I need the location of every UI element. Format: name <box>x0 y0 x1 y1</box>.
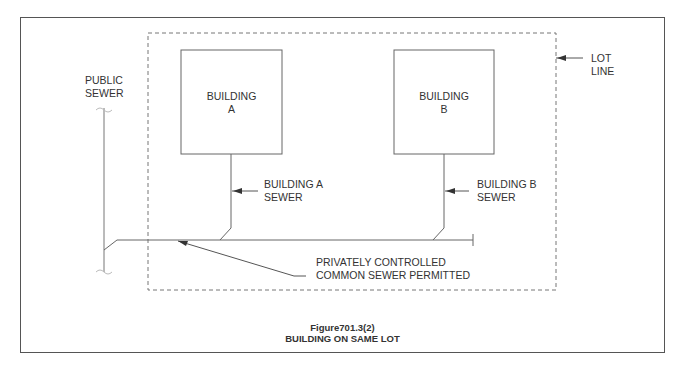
building-a-sewer-label: BUILDING A SEWER <box>264 178 323 204</box>
common-sewer-pipe <box>104 240 473 250</box>
building-a-label-line2: A <box>181 103 282 116</box>
lot-line-label: LOT LINE <box>591 52 614 78</box>
figure-number: Figure701.3(2) <box>20 322 665 333</box>
figure-title: BUILDING ON SAME LOT <box>20 333 665 344</box>
common-sewer-label-line1: PRIVATELY CONTROLLED <box>316 256 470 269</box>
figure-caption: Figure701.3(2) BUILDING ON SAME LOT <box>20 322 665 344</box>
building-a-label-line1: BUILDING <box>181 90 282 103</box>
building-b-sewer-pipe <box>433 154 444 240</box>
building-b-sewer-label-line2: SEWER <box>477 191 537 204</box>
building-b-label-line2: B <box>394 103 494 116</box>
common-sewer-label-line2: COMMON SEWER PERMITTED <box>316 269 470 282</box>
lot-line-boundary <box>148 33 556 290</box>
lot-line-arrow-icon <box>556 55 583 61</box>
building-b-label: BUILDING B <box>394 90 494 116</box>
building-b-sewer-label: BUILDING B SEWER <box>477 178 537 204</box>
building-a-sewer-arrow-icon <box>232 188 258 194</box>
building-a-sewer-label-line2: SEWER <box>264 191 323 204</box>
lot-line-label-line1: LOT <box>591 52 614 65</box>
public-sewer-label-line1: PUBLIC <box>85 74 124 87</box>
building-b-label-line1: BUILDING <box>394 90 494 103</box>
building-b-sewer-label-line1: BUILDING B <box>477 178 537 191</box>
building-b-sewer-arrow-icon <box>445 188 469 194</box>
building-a-sewer-pipe <box>220 154 231 240</box>
building-a-sewer-label-line1: BUILDING A <box>264 178 323 191</box>
public-sewer-label-line2: SEWER <box>85 87 124 100</box>
building-a-label: BUILDING A <box>181 90 282 116</box>
common-sewer-arrow-icon <box>178 241 306 276</box>
lot-line-label-line2: LINE <box>591 65 614 78</box>
public-sewer-label: PUBLIC SEWER <box>85 74 124 100</box>
common-sewer-label: PRIVATELY CONTROLLED COMMON SEWER PERMIT… <box>316 256 470 282</box>
